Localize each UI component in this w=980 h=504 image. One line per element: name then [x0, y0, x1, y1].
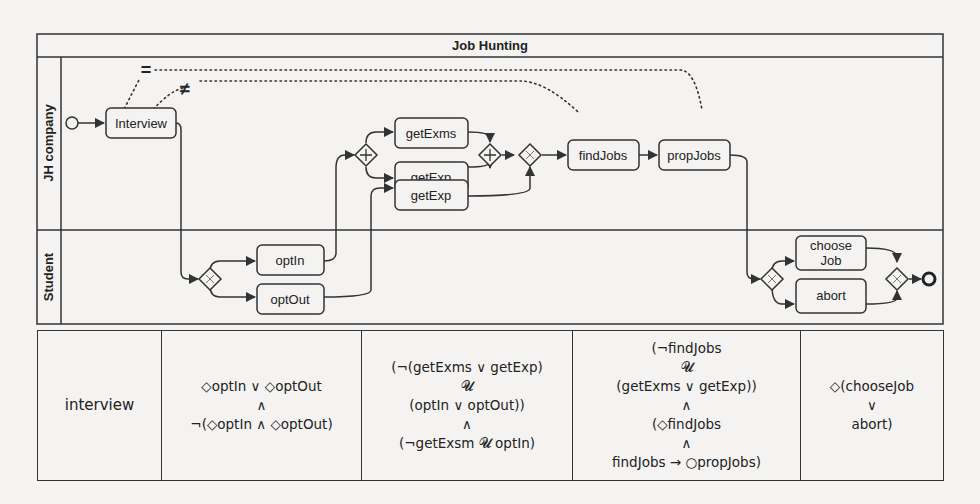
task-propJobs: propJobs	[659, 140, 730, 170]
gateway-xor-join-end	[886, 268, 908, 290]
cell-line: ¬(◇optIn ∧ ◇optOut)	[164, 415, 359, 434]
cell-line: ∧	[575, 396, 798, 415]
task-getExms-label: getExms	[406, 126, 457, 141]
cell-line: (¬getExsm 𝓤 optIn)	[364, 434, 570, 453]
task-optIn: optIn	[257, 245, 324, 275]
cell-line: (¬(getExms ∨ getExp)	[364, 358, 570, 377]
cell-findjobs-constraint: (¬findJobs 𝓤 (getExms ∨ getExp)) ∧ (◇fin…	[573, 331, 801, 481]
task-optOut: optOut	[257, 284, 324, 314]
task-findJobs-label: findJobs	[579, 148, 628, 163]
lane-label-student: Student	[41, 252, 56, 301]
start-event	[66, 117, 78, 129]
cell-choose-constraint: ◇(chooseJob ∨ abort)	[801, 331, 944, 481]
task-getExp-optout-label: getExp	[411, 188, 451, 203]
task-abort: abort	[796, 279, 866, 313]
cell-line: interview	[40, 396, 159, 415]
cell-line: (◇findJobs	[575, 415, 798, 434]
gateway-and-join	[479, 144, 501, 166]
cell-line: ∧	[575, 434, 798, 453]
task-chooseJob-label-line2: Job	[821, 253, 842, 268]
cell-line: (¬findJobs	[575, 339, 798, 358]
cell-line: ∧	[364, 415, 570, 434]
gateway-xor-join	[519, 144, 541, 166]
cell-line: abort)	[803, 415, 941, 434]
gateway-and-split	[355, 144, 377, 166]
table-row: interview ◇optIn ∨ ◇optOut ∧ ¬(◇optIn ∧ …	[38, 331, 944, 481]
cell-opt-constraint: (¬(getExms ∨ getExp) 𝓤 (optIn ∨ optOut))…	[362, 331, 573, 481]
task-findJobs: findJobs	[568, 140, 639, 170]
cell-line: ∧	[164, 396, 359, 415]
pool-title: Job Hunting	[452, 38, 528, 53]
task-propJobs-label: propJobs	[667, 148, 721, 163]
cell-line: (optIn ∨ optOut))	[364, 396, 570, 415]
lane-label-jh-company: JH company	[41, 104, 56, 182]
bpmn-diagram: Job Hunting JH company Student = ≠	[0, 0, 980, 330]
gateway-xor-split-choice	[761, 268, 783, 290]
task-chooseJob-label-line1: choose	[810, 238, 852, 253]
cell-interview-constraint: ◇optIn ∨ ◇optOut ∧ ¬(◇optIn ∧ ◇optOut)	[162, 331, 362, 481]
gateway-xor-split-student	[199, 268, 221, 290]
cell-interview: interview	[38, 331, 162, 481]
task-interview: Interview	[106, 108, 176, 138]
cell-line: 𝓤	[364, 377, 570, 396]
task-chooseJob: choose Job	[796, 236, 866, 270]
cell-line: 𝓤	[575, 358, 798, 377]
cell-line: findJobs → ○propJobs)	[575, 453, 798, 472]
task-abort-label: abort	[816, 288, 846, 303]
cell-line: ◇(chooseJob	[803, 377, 941, 396]
relation-lines	[122, 70, 702, 113]
task-optIn-label: optIn	[276, 253, 305, 268]
not-equal-relation-label: ≠	[180, 79, 190, 99]
task-interview-label: Interview	[115, 116, 168, 131]
cell-line: ∨	[803, 396, 941, 415]
task-getExp-optout: getExp	[395, 180, 468, 210]
ltl-constraints-table: interview ◇optIn ∨ ◇optOut ∧ ¬(◇optIn ∧ …	[37, 330, 944, 481]
task-optOut-label: optOut	[270, 292, 309, 307]
cell-line: (getExms ∨ getExp))	[575, 377, 798, 396]
cell-line: ◇optIn ∨ ◇optOut	[164, 377, 359, 396]
equal-relation-label: =	[141, 60, 152, 80]
task-getExms: getExms	[395, 118, 468, 148]
end-event	[923, 273, 935, 285]
